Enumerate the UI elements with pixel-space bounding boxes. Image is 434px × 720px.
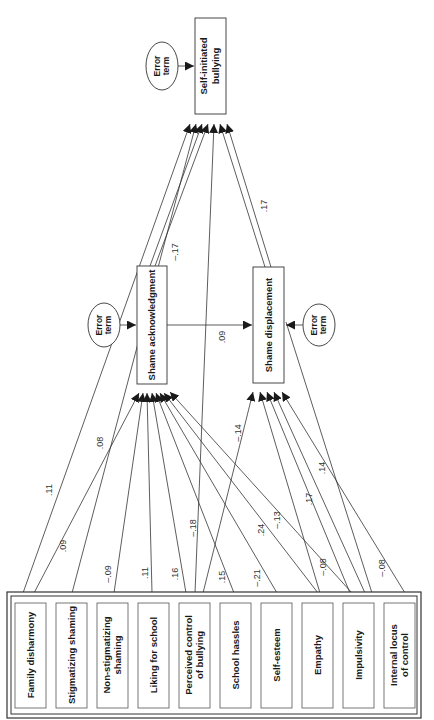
predictor-self-esteem: Self-esteem — [261, 603, 292, 708]
svg-text:School hassles: School hassles — [230, 620, 241, 689]
error-term-acknowledgment: Error term — [88, 303, 120, 347]
coef-p1-sa: .09 — [58, 540, 68, 553]
path-sd-extra — [286, 322, 372, 593]
predictor-empathy: Empathy — [302, 603, 333, 708]
coef-p7-sa: –.21 — [252, 569, 262, 587]
predictor-perceived-control: Perceived control of bullying — [179, 603, 210, 708]
predictor-non-stigmatizing-shaming: Non-stigmatizing shaming — [97, 603, 128, 708]
node-label: bullying — [210, 48, 221, 85]
path-p8-sd — [260, 392, 320, 593]
coef-p4-sa: .11 — [140, 567, 150, 579]
coef-p6-sd: –.14 — [233, 424, 243, 442]
svg-text:Perceived control: Perceived control — [183, 615, 194, 695]
coef-p10-sd: –.08 — [377, 559, 387, 577]
coef-p9-sa: –.13 — [272, 511, 282, 529]
coef-p2-sib: .08 — [95, 437, 105, 450]
node-label: Shame displacement — [263, 277, 274, 372]
error-term-displacement: Error term — [303, 304, 335, 346]
svg-text:term: term — [161, 56, 171, 75]
coef-sa-sd: .09 — [217, 331, 227, 344]
coef-sa-sib: –.17 — [170, 243, 180, 261]
path-p6-sa — [156, 393, 234, 593]
node-shame-acknowledgment: Shame acknowledgment — [137, 266, 167, 384]
path-p5-sa — [152, 393, 186, 593]
svg-text:of bullying: of bullying — [194, 631, 205, 679]
node-label: Shame acknowledgment — [146, 269, 157, 381]
svg-text:Stigmatizing shaming: Stigmatizing shaming — [66, 606, 77, 704]
path-p2-sib — [72, 124, 196, 593]
node-shame-displacement: Shame displacement — [253, 267, 284, 383]
coef-p5-sib: –.18 — [188, 519, 198, 537]
path-p8-sa — [164, 393, 318, 593]
node-label: Self-initiated — [198, 37, 209, 94]
path-diagram: Self-initiated bullying Shame acknowledg… — [0, 0, 434, 720]
path-p6-sd — [203, 392, 253, 593]
path-p7-sa — [160, 393, 277, 593]
coef-p5-sa: .16 — [170, 568, 180, 581]
svg-text:Liking for school: Liking for school — [148, 617, 159, 694]
svg-text:Family disharmony: Family disharmony — [25, 611, 36, 698]
path-p9-sd-1 — [267, 392, 350, 593]
predictor-family-disharmony: Family disharmony — [15, 603, 46, 708]
predictor-school-hassles: School hassles — [220, 603, 251, 708]
coef-sd-extra: .14 — [317, 462, 327, 475]
coef-sd-sib: .17 — [259, 200, 269, 213]
predictor-stigmatizing-shaming: Stigmatizing shaming — [56, 603, 87, 708]
svg-text:shaming: shaming — [112, 635, 123, 674]
error-term-outcome: Error term — [146, 42, 178, 90]
svg-text:of control: of control — [399, 633, 410, 677]
svg-text:Self-esteem: Self-esteem — [271, 628, 282, 681]
path-sd-sib-1 — [220, 124, 265, 267]
svg-text:Internal locus: Internal locus — [388, 624, 399, 686]
svg-text:term: term — [103, 315, 113, 334]
path-p3-sa — [114, 393, 143, 593]
coef-p8-sa: .24 — [256, 524, 266, 537]
predictor-internal-locus: Internal locus of control — [384, 603, 415, 708]
path-lines — [23, 66, 405, 593]
path-sa-sib-2 — [155, 124, 208, 266]
path-p4-sa — [147, 393, 152, 593]
svg-text:term: term — [318, 315, 328, 334]
coef-p3-sa: –.09 — [103, 565, 113, 583]
coef-p9-sd: .17 — [304, 493, 314, 506]
predictor-liking-for-school: Liking for school — [138, 603, 169, 708]
svg-text:Non-stigmatizing: Non-stigmatizing — [101, 616, 112, 693]
svg-text:Impulsivity: Impulsivity — [353, 629, 364, 679]
coef-p6-sa: .15 — [217, 571, 227, 584]
svg-text:Empathy: Empathy — [312, 634, 323, 675]
node-self-initiated-bullying: Self-initiated bullying — [195, 18, 226, 114]
path-sd-sib-2 — [227, 124, 271, 267]
coef-p1-sib: .11 — [44, 484, 54, 496]
coef-p8-sd: –.08 — [318, 558, 328, 576]
predictor-impulsivity: Impulsivity — [343, 603, 374, 708]
